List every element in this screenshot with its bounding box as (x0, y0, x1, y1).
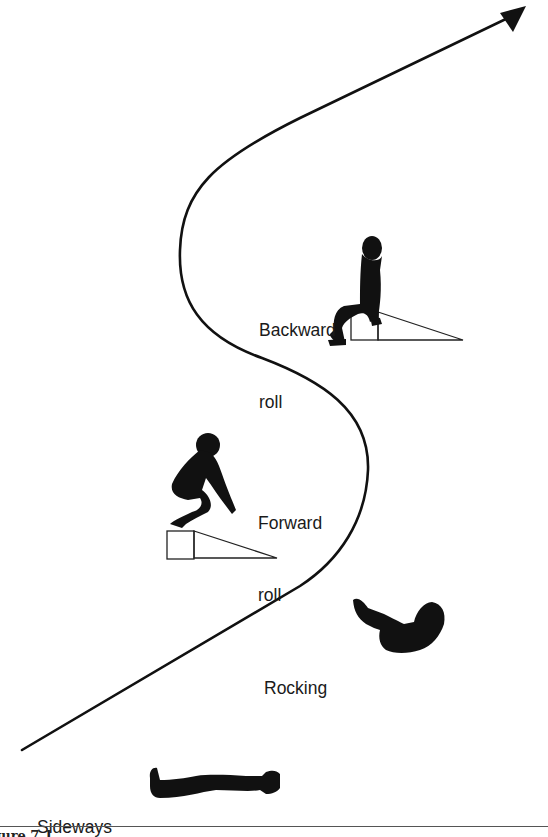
rocking-line1: Rocking (264, 676, 327, 700)
rocking-label: Rocking (264, 628, 327, 748)
progression-diagram: Backward roll Forward roll Rocking Sidew… (0, 0, 548, 837)
figure-caption: Figure 7.1 (0, 828, 53, 837)
backward-roll-label: Backward roll (259, 270, 336, 462)
backward-roll-line1: Backward (259, 318, 336, 342)
lying-figure-icon (150, 768, 280, 798)
caption-divider (0, 826, 548, 827)
backward-roll-line2: roll (259, 390, 336, 414)
sitting-figure-icon (328, 236, 382, 346)
forward-roll-label: Forward roll (258, 463, 322, 655)
rocking-figure-icon (353, 599, 445, 653)
forward-roll-line2: roll (258, 583, 322, 607)
forward-roll-line1: Forward (258, 511, 322, 535)
crouching-figure-icon (170, 433, 236, 528)
